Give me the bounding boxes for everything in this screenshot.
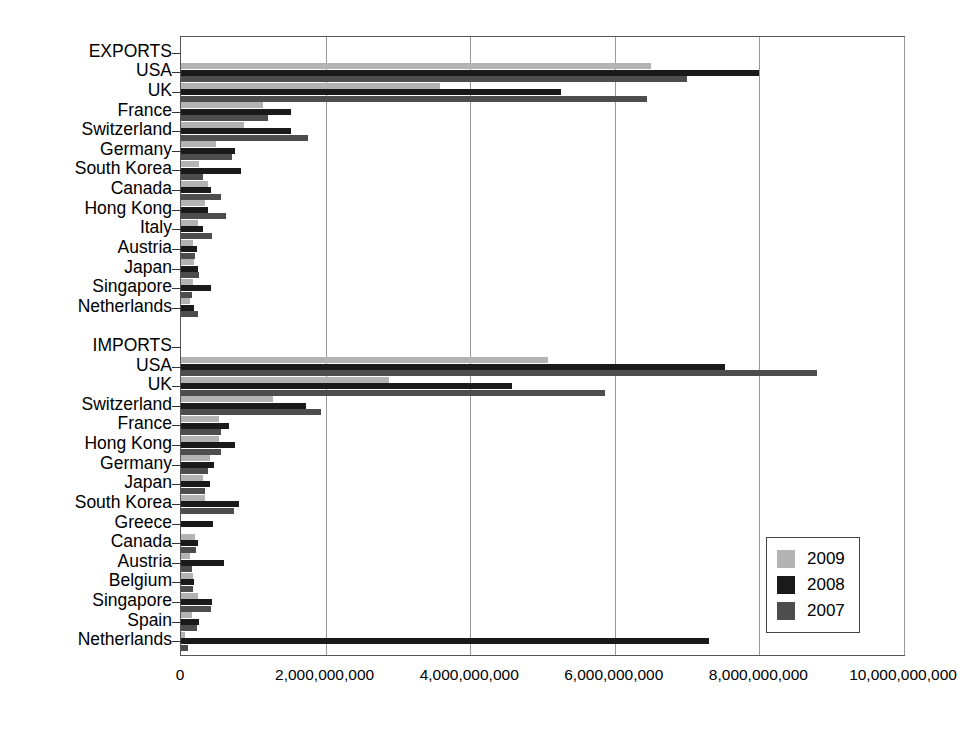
bar-2008 <box>181 442 235 448</box>
bar-2008 <box>181 540 198 546</box>
bar-2009 <box>181 612 192 618</box>
y-axis-tick <box>172 308 181 309</box>
y-axis-tick <box>172 524 181 525</box>
bar-2009 <box>181 475 203 481</box>
bar-2008 <box>181 383 512 389</box>
y-axis-category-label: Austria <box>118 236 172 257</box>
bar-2007 <box>181 468 208 474</box>
bar-2008 <box>181 128 291 134</box>
bar-2007 <box>181 449 221 455</box>
y-axis-tick <box>172 543 181 544</box>
bar-2008 <box>181 305 194 311</box>
bar-2009 <box>181 357 548 363</box>
y-axis-category-label: Hong Kong <box>84 433 172 454</box>
bar-2009 <box>181 573 193 579</box>
gridline-8000000000 <box>759 37 760 655</box>
bar-2008 <box>181 285 211 291</box>
legend-swatch-icon <box>777 602 795 620</box>
y-axis-tick <box>172 425 181 426</box>
y-axis-tick <box>172 210 181 211</box>
y-axis-category-label: Canada <box>111 178 172 199</box>
bar-chart: EXPORTSUSAUKFranceSwitzerlandGermanySout… <box>0 0 975 735</box>
y-axis-tick <box>172 622 181 623</box>
bar-2007 <box>181 154 232 160</box>
bar-2007 <box>181 429 221 435</box>
y-axis-tick <box>172 602 181 603</box>
bar-2009 <box>181 161 199 167</box>
bar-2008 <box>181 501 239 507</box>
y-axis-category-label: France <box>118 413 172 434</box>
y-axis-category-label: Switzerland <box>82 119 172 140</box>
legend-label: 2007 <box>807 601 845 621</box>
y-axis-category-label: South Korea <box>75 491 172 512</box>
x-tick-label: 6,000,000,000 <box>564 666 663 684</box>
bar-2007 <box>181 233 212 239</box>
bar-2008 <box>181 619 199 625</box>
y-axis-tick <box>172 484 181 485</box>
bar-2007 <box>181 213 226 219</box>
bar-2007 <box>181 606 211 612</box>
legend-swatch-icon <box>777 576 795 594</box>
bar-2007 <box>181 76 687 82</box>
bar-2009 <box>181 279 193 285</box>
bar-2007 <box>181 311 198 317</box>
y-axis-category-label: Germany <box>100 452 172 473</box>
bar-2009 <box>181 220 198 226</box>
bar-2008 <box>181 148 235 154</box>
bar-2008 <box>181 423 229 429</box>
bar-2007 <box>181 645 188 651</box>
y-axis-tick <box>172 229 181 230</box>
y-axis-tick <box>172 131 181 132</box>
y-axis-category-label: USA <box>136 60 172 81</box>
legend-label: 2009 <box>807 549 845 569</box>
bar-2007 <box>181 272 199 278</box>
y-axis-category-label: USA <box>136 354 172 375</box>
bar-2008 <box>181 364 725 370</box>
bar-2009 <box>181 259 194 265</box>
bar-2009 <box>181 534 195 540</box>
bar-2007 <box>181 253 195 259</box>
bar-2008 <box>181 109 291 115</box>
y-axis-tick <box>172 504 181 505</box>
bar-2008 <box>181 403 306 409</box>
y-axis-category-label: Netherlands <box>78 629 172 650</box>
y-axis-category-label: Spain <box>127 609 172 630</box>
bar-2007 <box>181 96 647 102</box>
bar-2008 <box>181 560 224 566</box>
y-axis-tick <box>172 367 181 368</box>
y-axis-tick <box>172 288 181 289</box>
chart-legend: 200920082007 <box>766 537 860 633</box>
y-axis-category-label: Belgium <box>109 570 172 591</box>
y-axis-category-label: UK <box>148 374 172 395</box>
bar-2009 <box>181 416 219 422</box>
y-axis-category-label: Greece <box>115 511 172 532</box>
bar-2007 <box>181 115 268 121</box>
x-tick-label: 8,000,000,000 <box>709 666 808 684</box>
bar-2008 <box>181 599 212 605</box>
bar-2009 <box>181 102 263 108</box>
bar-2007 <box>181 586 193 592</box>
y-axis-category-label: Japan <box>124 256 172 277</box>
x-axis: 02,000,000,0004,000,000,0006,000,000,000… <box>180 658 905 698</box>
gridline-2000000000 <box>326 37 327 655</box>
bar-2009 <box>181 83 440 89</box>
bar-2008 <box>181 462 214 468</box>
y-axis-tick <box>172 582 181 583</box>
bar-2007 <box>181 194 221 200</box>
bar-2009 <box>181 298 190 304</box>
x-tick-label: 0 <box>176 666 185 684</box>
bar-2009 <box>181 200 205 206</box>
y-axis-tick <box>172 151 181 152</box>
y-axis-category-label: South Korea <box>75 158 172 179</box>
bar-2008 <box>181 266 198 272</box>
y-axis-tick <box>172 249 181 250</box>
bar-2008 <box>181 207 208 213</box>
y-axis-labels: EXPORTSUSAUKFranceSwitzerlandGermanySout… <box>0 36 172 656</box>
y-axis-tick <box>172 406 181 407</box>
y-axis-category-label: Singapore <box>92 276 172 297</box>
y-axis-category-label: Canada <box>111 531 172 552</box>
bar-2009 <box>181 495 205 501</box>
bar-2009 <box>181 181 208 187</box>
x-tick-label: 4,000,000,000 <box>420 666 519 684</box>
bar-2007 <box>181 625 197 631</box>
